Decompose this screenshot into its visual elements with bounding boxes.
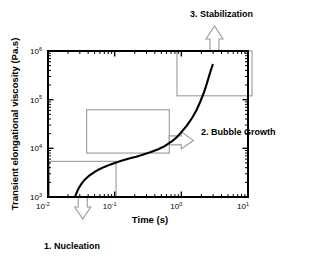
y-axis-title: Transient elongational viscosity (Pa.s) <box>9 38 20 211</box>
callout-label-nucleation: 1. Nucleation <box>44 241 100 251</box>
viscosity-log-log-plot: 10-210-1100101103104105106Time (s)Transi… <box>0 0 311 261</box>
callout-label-stabilization: 3. Stabilization <box>190 9 253 19</box>
chart-figure: 10-210-1100101103104105106Time (s)Transi… <box>0 0 311 261</box>
x-axis-title: Time (s) <box>132 214 168 225</box>
callout-label-bubble-growth: 2. Bubble Growth <box>201 127 276 137</box>
